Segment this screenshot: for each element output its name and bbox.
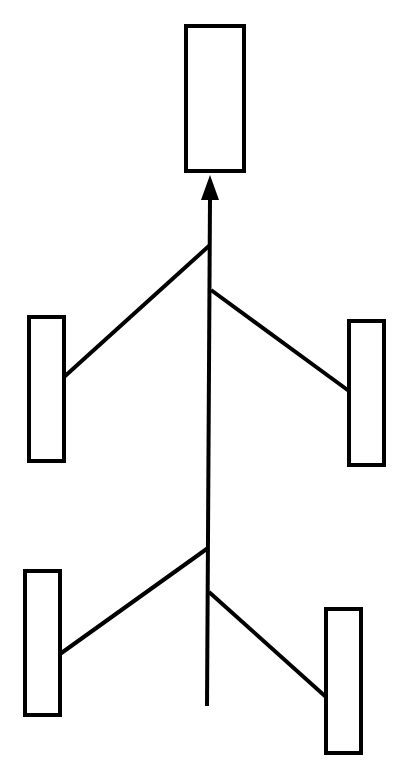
branch-to-left-box-2 — [60, 548, 208, 654]
arrowhead-icon — [201, 175, 219, 200]
top-box — [186, 26, 244, 171]
branch-to-left-box-1 — [64, 245, 210, 377]
branch-to-right-box-2 — [209, 592, 326, 697]
diagram-canvas — [0, 0, 401, 766]
left-box-2 — [25, 571, 60, 715]
branch-to-right-box-1 — [211, 290, 349, 391]
left-box-1 — [29, 317, 64, 461]
right-box-1 — [349, 321, 384, 465]
spine-line — [207, 198, 210, 706]
right-box-2 — [326, 609, 361, 753]
